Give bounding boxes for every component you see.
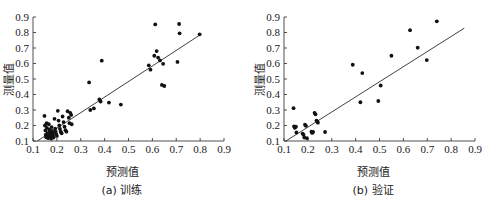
y-tick-label-a-8: 0.9 (15, 11, 29, 23)
axis-lines-b (284, 17, 475, 141)
axis-tick-marks-a (33, 17, 224, 141)
regression-line-a (37, 34, 201, 141)
y-tick-label-a-4: 0.5 (15, 73, 29, 85)
data-point (63, 125, 67, 129)
data-point (88, 108, 92, 112)
y-axis-tick-labels-b: 0.10.20.30.40.50.60.70.80.9 (266, 11, 280, 147)
x-tick-label-b-2: 0.3 (325, 143, 339, 155)
x-tick-label-b-6: 0.7 (420, 143, 434, 155)
x-tick-label-b-3: 0.4 (349, 143, 363, 155)
data-point (47, 122, 51, 126)
data-point (50, 125, 54, 129)
chart-panel-a: 0.10.20.30.40.50.60.70.80.9 0.10.20.30.4… (0, 0, 250, 201)
data-point (99, 100, 103, 104)
data-point (57, 119, 61, 123)
y-tick-label-b-1: 0.2 (266, 119, 280, 131)
data-point (92, 107, 96, 111)
regression-line-b (286, 28, 464, 141)
x-axis-title-a: 预测值 (106, 166, 139, 179)
data-point (304, 124, 308, 128)
data-point (60, 131, 64, 135)
data-point (62, 120, 66, 124)
data-point (177, 22, 181, 26)
x-axis-tick-labels-b: 0.10.20.30.40.50.60.70.80.9 (277, 143, 482, 155)
data-point (53, 117, 57, 121)
x-tick-label-a-4: 0.5 (122, 143, 136, 155)
data-point (425, 58, 429, 62)
data-points-a (43, 22, 202, 141)
data-point (178, 31, 182, 35)
y-axis-title-a: 测量值 (3, 63, 16, 96)
fit-line-b (286, 28, 464, 141)
x-tick-label-a-5: 0.6 (146, 143, 160, 155)
data-point (408, 28, 412, 32)
x-tick-label-b-1: 0.2 (301, 143, 315, 155)
data-point (147, 63, 151, 67)
y-tick-label-b-3: 0.4 (266, 88, 280, 100)
figure-container: 0.10.20.30.40.50.60.70.80.9 0.10.20.30.4… (0, 0, 501, 201)
scatter-plot-b: 0.10.20.30.40.50.60.70.80.9 0.10.20.30.4… (251, 0, 501, 201)
y-tick-label-b-8: 0.9 (266, 11, 280, 23)
x-tick-label-b-8: 0.9 (468, 143, 482, 155)
data-point (152, 54, 156, 58)
x-tick-label-a-6: 0.7 (169, 143, 183, 155)
data-point (107, 101, 111, 105)
data-point (379, 84, 383, 88)
x-tick-label-a-7: 0.8 (193, 143, 207, 155)
y-axis-title-b: 测量值 (254, 63, 267, 96)
data-point (57, 124, 61, 128)
data-point (176, 60, 180, 64)
data-point (119, 103, 123, 107)
data-point (161, 62, 165, 66)
x-tick-label-a-3: 0.4 (98, 143, 112, 155)
data-point (360, 71, 364, 75)
data-point (43, 114, 47, 118)
data-point (305, 136, 309, 140)
panel-caption-b: (b) 验证 (352, 183, 393, 197)
x-tick-label-a-2: 0.3 (74, 143, 88, 155)
x-tick-label-b-4: 0.5 (373, 143, 387, 155)
y-axis-tick-labels-a: 0.10.20.30.40.50.60.70.80.9 (15, 11, 29, 147)
axis-tick-marks-b (284, 17, 475, 141)
data-point (292, 106, 296, 110)
data-point (69, 113, 73, 117)
data-point (155, 49, 159, 53)
data-point (323, 130, 327, 134)
y-tick-label-b-5: 0.6 (266, 57, 280, 69)
data-point (295, 131, 299, 135)
y-tick-label-a-5: 0.6 (15, 57, 29, 69)
data-point (56, 109, 60, 113)
chart-panel-b: 0.10.20.30.40.50.60.70.80.9 0.10.20.30.4… (251, 0, 501, 201)
data-point (435, 19, 439, 23)
y-tick-label-b-6: 0.7 (266, 42, 280, 54)
y-tick-label-a-0: 0.1 (15, 135, 29, 147)
data-point (100, 59, 104, 63)
axis-lines-a (33, 17, 224, 141)
y-tick-label-b-4: 0.5 (266, 73, 280, 85)
data-point (61, 115, 65, 119)
x-axis-title-b: 预测值 (357, 166, 390, 179)
x-tick-label-b-7: 0.8 (444, 143, 458, 155)
y-tick-label-b-2: 0.3 (266, 104, 280, 116)
x-tick-label-b-5: 0.6 (397, 143, 411, 155)
y-tick-label-b-7: 0.8 (266, 26, 280, 38)
y-tick-label-a-1: 0.2 (15, 119, 29, 131)
data-point (359, 100, 363, 104)
data-point (376, 99, 380, 103)
data-point (390, 54, 394, 58)
data-point (65, 130, 69, 134)
data-point (153, 23, 157, 27)
data-point (416, 46, 420, 50)
data-point (149, 68, 153, 72)
data-point (311, 130, 315, 134)
data-point (87, 81, 91, 85)
scatter-plot-a: 0.10.20.30.40.50.60.70.80.9 0.10.20.30.4… (0, 0, 250, 201)
data-point (70, 122, 74, 126)
y-tick-label-a-7: 0.8 (15, 26, 29, 38)
x-axis-tick-labels-a: 0.10.20.30.40.50.60.70.80.9 (26, 143, 231, 155)
data-point (162, 84, 166, 88)
x-tick-label-a-8: 0.9 (217, 143, 231, 155)
data-point (52, 136, 56, 140)
data-point (158, 59, 162, 63)
data-point (198, 32, 202, 36)
